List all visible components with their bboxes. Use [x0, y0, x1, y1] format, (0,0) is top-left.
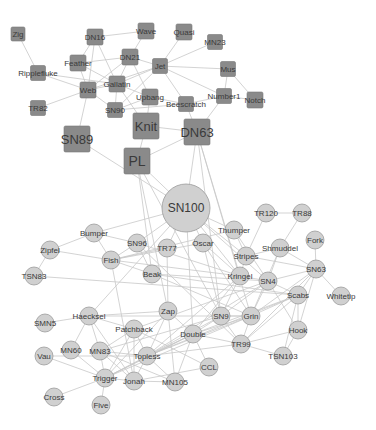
node-jet[interactable]: Jet [153, 59, 168, 74]
network-diagram: ZigDN16WaveQuasiMN23FeatherDN21JetMusRip… [0, 0, 376, 430]
node-vau[interactable]: Vau [35, 347, 53, 365]
node-quasi[interactable]: Quasi [174, 24, 195, 40]
node-label: Feather [64, 59, 92, 68]
node-dn63[interactable]: DN63 [180, 119, 213, 145]
node-label: TR120 [254, 209, 279, 218]
node-tr82[interactable]: TR82 [28, 101, 48, 116]
node-label: TR88 [292, 209, 312, 218]
node-label: TSN103 [268, 352, 298, 361]
node-label: MN105 [162, 378, 188, 387]
node-sn90[interactable]: SN90 [105, 103, 126, 118]
node-label: Stripes [234, 252, 259, 261]
node-label: SMN5 [34, 319, 57, 328]
node-ccl[interactable]: CCL [200, 358, 218, 376]
node-label: SN100 [168, 201, 205, 215]
node-label: SN96 [127, 239, 148, 248]
node-five[interactable]: Five [92, 396, 110, 414]
node-label: Wave [136, 27, 157, 36]
node-label: Haecksel [73, 312, 106, 321]
node-label: Vau [37, 352, 51, 361]
node-zig[interactable]: Zig [11, 27, 25, 41]
node-knit[interactable]: Knit [133, 113, 159, 139]
node-label: Number1 [208, 92, 241, 101]
node-dn21[interactable]: DN21 [120, 49, 141, 65]
node-label: MN83 [89, 347, 111, 356]
node-label: Fish [103, 256, 118, 265]
node-label: Grin [243, 312, 258, 321]
node-label: Notch [245, 96, 266, 105]
node-dn16[interactable]: DN16 [85, 29, 106, 45]
node-label: Beescratch [166, 100, 206, 109]
node-label: Double [180, 330, 206, 339]
node-label: Jonah [123, 377, 145, 386]
node-label: Whitetip [327, 292, 356, 301]
node-label: Fork [307, 236, 324, 245]
node-fork[interactable]: Fork [306, 231, 324, 249]
node-label: Shmuddel [262, 244, 298, 253]
node-label: Five [93, 401, 109, 410]
node-label: Zig [12, 30, 23, 39]
node-sn100[interactable]: SN100 [162, 184, 210, 232]
node-label: Cross [44, 393, 65, 402]
node-sn4[interactable]: SN4 [259, 272, 277, 290]
node-label: Mus [220, 65, 235, 74]
node-wave[interactable]: Wave [136, 23, 157, 39]
node-label: TR99 [231, 340, 251, 349]
node-label: PL [128, 153, 145, 169]
node-label: Knit [135, 119, 158, 134]
node-label: DN16 [85, 33, 106, 42]
node-label: DN21 [120, 53, 141, 62]
node-label: SN9 [213, 312, 229, 321]
node-label: Trigger [92, 374, 117, 383]
node-label: TR82 [28, 104, 48, 113]
node-label: TR77 [157, 244, 177, 253]
node-label: Oscar [192, 239, 214, 248]
node-label: Gallatin [103, 80, 130, 89]
node-sn9[interactable]: SN9 [212, 307, 230, 325]
node-pl[interactable]: PL [124, 148, 150, 174]
node-label: Zap [161, 307, 175, 316]
node-label: Patchback [115, 325, 153, 334]
node-label: Zipfel [40, 246, 60, 255]
node-label: TSN83 [22, 272, 47, 281]
node-label: Thumper [218, 226, 250, 235]
node-label: Upbang [136, 93, 164, 102]
node-label: Jet [155, 62, 166, 71]
node-zap[interactable]: Zap [159, 302, 177, 320]
node-label: CCL [201, 363, 218, 372]
node-label: Beak [143, 270, 162, 279]
node-label: Topless [133, 352, 160, 361]
node-label: MN60 [60, 346, 82, 355]
node-label: SN4 [260, 277, 276, 286]
node-mus[interactable]: Mus [220, 62, 235, 77]
node-label: Bumper [80, 229, 108, 238]
node-label: DN63 [180, 125, 213, 140]
node-web[interactable]: Web [80, 82, 97, 98]
node-label: SN90 [105, 106, 126, 115]
node-label: SN63 [306, 265, 327, 274]
node-label: Quasi [174, 28, 195, 37]
node-label: Web [80, 86, 97, 95]
node-label: MN23 [204, 38, 226, 47]
node-label: Scabs [287, 291, 309, 300]
node-label: Hook [289, 326, 309, 335]
node-label: Kringel [228, 272, 253, 281]
node-label: SN89 [61, 132, 94, 147]
node-grin[interactable]: Grin [242, 307, 260, 325]
node-fish[interactable]: Fish [102, 251, 120, 269]
node-notch[interactable]: Notch [245, 92, 266, 108]
node-label: Ripplefluke [18, 69, 58, 78]
node-sn89[interactable]: SN89 [61, 126, 94, 152]
